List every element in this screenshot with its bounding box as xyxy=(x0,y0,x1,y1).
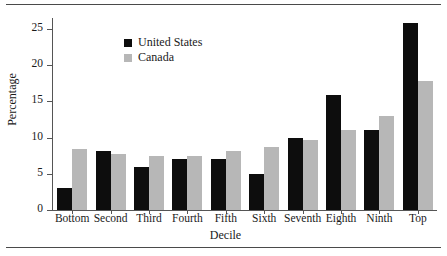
y-tick: 10 xyxy=(47,138,52,139)
bar-united-states xyxy=(134,167,149,210)
legend-item-us: United States xyxy=(124,35,202,50)
legend: United StatesCanada xyxy=(124,35,202,65)
bar-canada xyxy=(149,156,164,210)
bar-group xyxy=(399,14,437,210)
y-axis-title: Percentage xyxy=(5,30,20,170)
y-tick: 25 xyxy=(47,29,52,30)
bar-canada xyxy=(418,81,433,210)
bar-united-states xyxy=(96,151,111,210)
legend-swatch-us xyxy=(124,39,132,47)
y-tick-label: 0 xyxy=(37,203,43,215)
x-axis-label: Fourth xyxy=(168,212,206,225)
bar-group xyxy=(207,14,245,210)
bar-united-states xyxy=(57,188,72,210)
bar-canada xyxy=(226,151,241,210)
x-axis-label: Eighth xyxy=(322,212,360,225)
bottom-rule xyxy=(6,247,441,248)
bar-united-states xyxy=(288,138,303,210)
bar-canada xyxy=(379,116,394,210)
x-axis-label: Third xyxy=(130,212,168,225)
x-axis-label: Bottom xyxy=(53,212,91,225)
y-tick-label: 10 xyxy=(32,131,44,143)
x-axis-label: Sixth xyxy=(245,212,283,225)
bar-group xyxy=(283,14,321,210)
y-tick-label: 20 xyxy=(32,58,44,70)
y-tick-label: 5 xyxy=(37,167,43,179)
x-axis-labels: BottomSecondThirdFourthFifthSixthSeventh… xyxy=(53,212,437,225)
plot-area: 0510152025 United StatesCanada xyxy=(52,14,437,210)
x-axis-label: Seventh xyxy=(283,212,321,225)
x-axis-title-text: Decile xyxy=(210,228,241,243)
x-axis-title: Decile xyxy=(0,228,447,243)
x-axis-label: Ninth xyxy=(360,212,398,225)
legend-label-canada: Canada xyxy=(138,51,174,64)
x-axis-label: Fifth xyxy=(207,212,245,225)
bar-canada xyxy=(111,154,126,211)
y-tick: 5 xyxy=(47,174,52,175)
y-tick-label: 25 xyxy=(32,22,44,34)
bar-group xyxy=(245,14,283,210)
figure-container: Percentage 0510152025 United StatesCanad… xyxy=(0,0,447,256)
y-tick: 15 xyxy=(47,101,52,102)
bar-united-states xyxy=(249,174,264,210)
bar-group xyxy=(53,14,91,210)
bar-united-states xyxy=(211,159,226,210)
bar-united-states xyxy=(326,95,341,210)
bar-canada xyxy=(341,130,356,210)
bar-united-states xyxy=(364,130,379,210)
bar-group xyxy=(322,14,360,210)
top-rule xyxy=(6,4,441,5)
bar-canada xyxy=(72,149,87,210)
y-tick: 20 xyxy=(47,65,52,66)
bar-canada xyxy=(187,156,202,210)
legend-label-us: United States xyxy=(138,36,202,49)
x-axis-label: Top xyxy=(399,212,437,225)
bar-groups xyxy=(53,14,437,210)
x-axis-label: Second xyxy=(91,212,129,225)
bar-canada xyxy=(303,140,318,210)
bar-group xyxy=(360,14,398,210)
y-tick-label: 15 xyxy=(32,94,44,106)
legend-swatch-canada xyxy=(124,54,132,62)
bar-united-states xyxy=(403,23,418,210)
bar-canada xyxy=(264,147,279,210)
bar-united-states xyxy=(172,159,187,210)
legend-item-canada: Canada xyxy=(124,50,202,65)
